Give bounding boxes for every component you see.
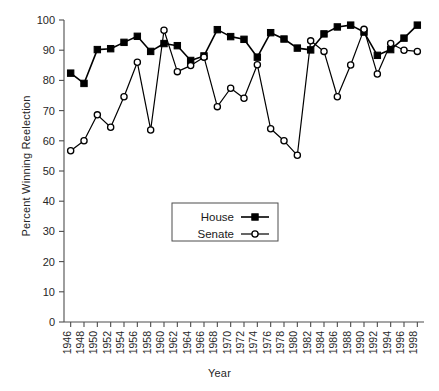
x-tick-label: 1978 [274, 331, 286, 355]
y-tick-label: 10 [43, 286, 55, 298]
x-tick-label: 1986 [327, 331, 339, 355]
x-tick-label: 1994 [381, 331, 393, 355]
y-axis: 0102030405060708090100 [37, 14, 64, 328]
x-tick-label: 1982 [301, 331, 313, 355]
x-tick-label: 1996 [394, 331, 406, 355]
x-tick-label: 1956 [127, 331, 139, 355]
x-tick-label: 1960 [154, 331, 166, 355]
x-tick-label: 1948 [74, 331, 86, 355]
legend-label-house: House [201, 211, 234, 223]
data-series-group [67, 22, 420, 158]
plot-area: 0102030405060708090100 19461948195019521… [0, 0, 439, 391]
chart-legend: HouseSenate [172, 203, 278, 241]
x-tick-label: 1950 [87, 331, 99, 355]
x-tick-label: 1980 [287, 331, 299, 355]
x-tick-label: 1974 [247, 331, 259, 355]
x-tick-label: 1968 [207, 331, 219, 355]
x-tick-label: 1952 [101, 331, 113, 355]
y-tick-label: 70 [43, 105, 55, 117]
y-tick-label: 60 [43, 135, 55, 147]
y-tick-label: 90 [43, 44, 55, 56]
x-tick-label: 1958 [141, 331, 153, 355]
y-tick-label: 0 [49, 316, 55, 328]
y-tick-label: 40 [43, 195, 55, 207]
x-tick-label: 1946 [61, 331, 73, 355]
x-tick-label: 1970 [221, 331, 233, 355]
x-tick-label: 1990 [354, 331, 366, 355]
legend-label-senate: Senate [198, 228, 234, 240]
x-tick-label: 1992 [367, 331, 379, 355]
y-tick-label: 80 [43, 74, 55, 86]
x-tick-label: 1964 [181, 331, 193, 355]
x-tick-label: 1984 [314, 331, 326, 355]
x-tick-label: 1962 [167, 331, 179, 355]
y-tick-label: 100 [37, 14, 55, 26]
x-axis-title: Year [0, 367, 439, 379]
x-tick-label: 1988 [341, 331, 353, 355]
y-tick-label: 50 [43, 165, 55, 177]
y-tick-label: 20 [43, 256, 55, 268]
x-tick-label: 1972 [234, 331, 246, 355]
x-tick-label: 1976 [261, 331, 273, 355]
y-tick-label: 30 [43, 225, 55, 237]
series-house [67, 22, 420, 87]
reelection-rate-chart: 0102030405060708090100 19461948195019521… [0, 0, 439, 391]
y-axis-title: Percent Winning Reelection [20, 56, 32, 276]
x-axis: 1946194819501952195419561958196019621964… [61, 322, 424, 354]
x-tick-label: 1966 [194, 331, 206, 355]
series-senate [68, 26, 421, 158]
x-tick-label: 1998 [407, 331, 419, 355]
x-tick-label: 1954 [114, 331, 126, 355]
